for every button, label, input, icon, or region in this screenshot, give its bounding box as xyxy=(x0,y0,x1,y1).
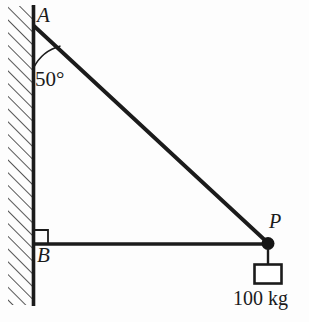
statics-diagram: A B P 50° 100 kg xyxy=(0,0,309,322)
wall-hatching xyxy=(8,6,33,305)
label-angle-measure: 50° xyxy=(35,69,64,90)
label-mass-value: 100 kg xyxy=(233,288,288,308)
label-point-p: P xyxy=(269,211,281,231)
label-point-a: A xyxy=(37,5,50,26)
diagram-canvas xyxy=(0,0,309,322)
label-point-b: B xyxy=(37,245,50,266)
load-block xyxy=(255,265,282,284)
strut-member-ap xyxy=(34,26,268,243)
right-angle-marker xyxy=(35,230,48,243)
